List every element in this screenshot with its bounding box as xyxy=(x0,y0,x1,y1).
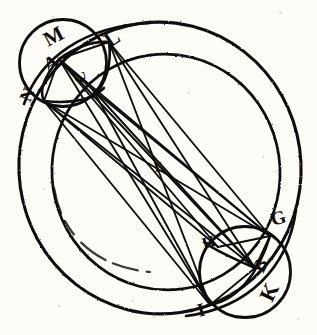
chord-A-I xyxy=(59,59,210,305)
paper-speck xyxy=(43,188,45,190)
label-E: E xyxy=(153,159,164,175)
chord-C-B xyxy=(93,90,255,268)
paper-speck xyxy=(262,156,264,158)
label-group: M A N L C E G H B K I xyxy=(15,21,288,321)
chord-N-H xyxy=(44,101,218,247)
paper-speck xyxy=(188,92,190,94)
geometric-diagram-figure: M A N L C E G H B K I xyxy=(0,0,317,335)
label-I: I xyxy=(195,299,207,321)
paper-speck xyxy=(52,16,54,18)
paper-speck xyxy=(279,12,282,14)
chord-B-I xyxy=(210,268,255,305)
chord-C-G xyxy=(93,90,270,236)
paper-speck xyxy=(58,305,60,307)
chord-C-I xyxy=(93,90,210,305)
paper-speck xyxy=(132,300,134,302)
paper-speck xyxy=(297,318,299,320)
diagram-canvas: M A N L C E G H B K I xyxy=(0,0,317,335)
paper-speck xyxy=(24,135,26,137)
label-G: G xyxy=(268,206,288,230)
